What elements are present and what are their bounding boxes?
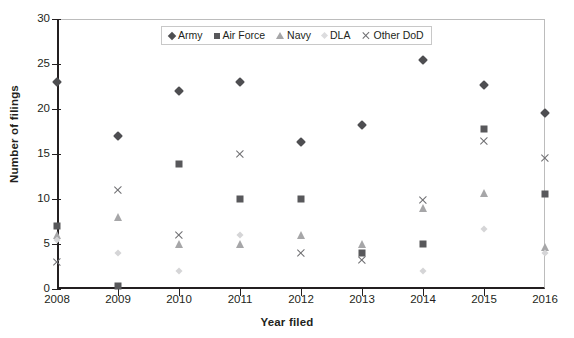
legend-item-dla[interactable]: DLA: [322, 30, 350, 41]
x-axis-tick-label: 2010: [149, 294, 209, 306]
data-point: [52, 257, 62, 267]
data-point: [237, 196, 244, 203]
data-point: [175, 240, 183, 248]
legend-item-other-dod[interactable]: Other DoD: [361, 30, 423, 41]
y-axis-tick-label: 10: [22, 193, 50, 205]
x-axis-tick-label: 2016: [515, 294, 574, 306]
triangle-marker-icon: [276, 32, 284, 39]
x-axis-tick-label: 2012: [271, 294, 331, 306]
x-marker-icon: [361, 31, 370, 40]
diamond-marker-icon: [168, 31, 176, 39]
legend-item-label: DLA: [330, 30, 350, 41]
y-axis-tick: [52, 289, 61, 290]
y-axis-title: Number of filings: [8, 44, 20, 224]
data-point: [297, 231, 305, 239]
data-point: [235, 149, 245, 159]
y-axis-tick: [52, 109, 61, 110]
x-axis-tick-label: 2015: [454, 294, 514, 306]
y-axis-tick-label: 25: [22, 58, 50, 70]
small-diamond-marker-icon: [321, 32, 328, 39]
legend-item-label: Army: [178, 30, 203, 41]
square-marker-icon: [214, 33, 220, 39]
data-point: [358, 240, 366, 248]
y-axis-tick-label: 20: [22, 103, 50, 115]
chart-legend: ArmyAir ForceNavyDLAOther DoD: [161, 26, 432, 45]
y-axis-tick: [52, 154, 61, 155]
data-point: [420, 241, 427, 248]
x-axis-tick-label: 2009: [88, 294, 148, 306]
data-point: [236, 240, 244, 248]
data-point: [298, 196, 305, 203]
data-point: [479, 136, 489, 146]
legend-item-label: Air Force: [223, 30, 266, 41]
data-point: [481, 125, 488, 132]
legend-item-label: Navy: [287, 30, 311, 41]
data-point: [113, 185, 123, 195]
scatter-chart: 051015202530 200820092010201120122013201…: [0, 0, 574, 338]
x-axis-tick-label: 2011: [210, 294, 270, 306]
legend-item-air-force[interactable]: Air Force: [214, 30, 266, 41]
y-axis-tick: [52, 199, 61, 200]
data-point: [114, 213, 122, 221]
data-point: [418, 195, 428, 205]
y-axis-tick-label: 30: [22, 13, 50, 25]
y-axis-tick: [52, 64, 61, 65]
data-point: [542, 190, 549, 197]
y-axis-tick-label: 15: [22, 148, 50, 160]
legend-item-navy[interactable]: Navy: [276, 30, 311, 41]
legend-item-label: Other DoD: [373, 30, 423, 41]
data-point: [176, 160, 183, 167]
legend-item-army[interactable]: Army: [169, 30, 203, 41]
y-axis-tick: [52, 19, 61, 20]
x-axis-tick-label: 2013: [332, 294, 392, 306]
data-point: [419, 204, 427, 212]
x-axis-tick-label: 2008: [27, 294, 87, 306]
data-point: [115, 283, 122, 290]
data-point: [54, 223, 61, 230]
data-point: [480, 189, 488, 197]
y-axis-tick: [52, 244, 61, 245]
data-point: [357, 255, 367, 265]
x-axis-tick-label: 2014: [393, 294, 453, 306]
x-axis-title: Year filed: [0, 316, 574, 328]
data-point: [540, 153, 550, 163]
y-axis-tick-label: 5: [22, 238, 50, 250]
data-point: [296, 248, 306, 258]
data-point: [174, 230, 184, 240]
